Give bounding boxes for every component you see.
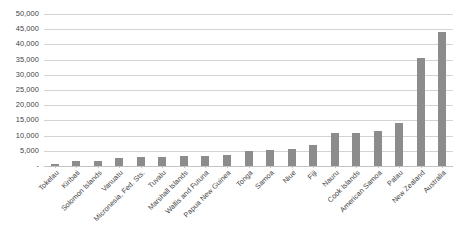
x-axis-tick-label: Fiji <box>307 169 319 181</box>
bar-slot <box>302 14 324 166</box>
y-axis-tick-label: 30,000 <box>0 71 39 79</box>
x-axis-tick-mark <box>141 166 142 168</box>
bar <box>288 149 296 166</box>
y-axis-tick-label: 50,000 <box>0 10 39 18</box>
bar-slot <box>130 14 152 166</box>
bar-slot <box>432 14 454 166</box>
x-axis-tick-mark <box>356 166 357 168</box>
bar-slot <box>367 14 389 166</box>
x-axis-tick-mark <box>162 166 163 168</box>
x-axis-tick-mark <box>378 166 379 168</box>
bar-slot <box>173 14 195 166</box>
bar <box>438 32 446 166</box>
y-axis-tick-label: 10,000 <box>0 132 39 140</box>
bar <box>352 133 360 166</box>
bar <box>331 133 339 166</box>
x-axis-slot: Fiji <box>302 166 324 241</box>
y-axis-tick-label: 25,000 <box>0 86 39 94</box>
bar-slot <box>152 14 174 166</box>
bar-slot <box>44 14 66 166</box>
bar-slot <box>87 14 109 166</box>
bar <box>374 131 382 166</box>
x-axis-tick-mark <box>205 166 206 168</box>
y-axis-tick-label: 35,000 <box>0 56 39 64</box>
y-axis-tick-label: 20,000 <box>0 101 39 109</box>
bar-chart: 50,00045,00040,00035,00030,00025,00020,0… <box>0 0 460 241</box>
x-axis-slot: Papua New Guinea <box>216 166 238 241</box>
x-axis-tick-mark <box>335 166 336 168</box>
bar-slot <box>389 14 411 166</box>
x-axis-tick-mark <box>227 166 228 168</box>
x-axis-slot: Samoa <box>259 166 281 241</box>
x-axis-slot: Niue <box>281 166 303 241</box>
bar-slot <box>324 14 346 166</box>
bar <box>245 151 253 166</box>
bar-slot <box>259 14 281 166</box>
bar-slot <box>345 14 367 166</box>
y-axis-tick-label: 45,000 <box>0 25 39 33</box>
x-axis-tick-mark <box>313 166 314 168</box>
bar-series <box>44 14 453 166</box>
x-axis-tick-mark <box>55 166 56 168</box>
bar-slot <box>281 14 303 166</box>
bar <box>137 157 145 166</box>
bar <box>201 156 209 166</box>
bar-slot <box>410 14 432 166</box>
x-axis-slot: Palau <box>389 166 411 241</box>
x-axis-tick-mark <box>249 166 250 168</box>
x-axis-tick-label: Tonga <box>235 169 255 189</box>
x-axis-slot: New Zealand <box>410 166 432 241</box>
x-axis-tick-mark <box>184 166 185 168</box>
x-axis-slot: American Samoa <box>367 166 389 241</box>
x-axis-tick-mark <box>98 166 99 168</box>
bar <box>223 155 231 166</box>
bar <box>180 156 188 166</box>
bar <box>309 145 317 166</box>
x-axis-tick-mark <box>421 166 422 168</box>
y-axis-tick-label: 15,000 <box>0 116 39 124</box>
bar <box>417 58 425 166</box>
bar-slot <box>195 14 217 166</box>
bar <box>115 158 123 166</box>
bar <box>158 157 166 166</box>
x-axis-slot: Australia <box>432 166 454 241</box>
x-axis: TokelauKiribatiSolomon IslandsVanuatuMic… <box>44 166 453 241</box>
x-axis-tick-mark <box>442 166 443 168</box>
bar <box>395 123 403 166</box>
x-axis-tick-label: Tokelau <box>37 169 60 192</box>
y-axis-tick-label: 5,000 <box>0 147 39 155</box>
bar-slot <box>216 14 238 166</box>
bar-slot <box>66 14 88 166</box>
bar <box>266 150 274 166</box>
bar-slot <box>109 14 131 166</box>
x-axis-tick-mark <box>399 166 400 168</box>
plot-area <box>44 14 453 166</box>
x-axis-tick-mark <box>76 166 77 168</box>
x-axis-tick-mark <box>119 166 120 168</box>
x-axis-slot: Tonga <box>238 166 260 241</box>
bar-slot <box>238 14 260 166</box>
x-axis-tick-mark <box>292 166 293 168</box>
y-axis-tick-label: 40,000 <box>0 40 39 48</box>
y-axis-tick-label: - <box>0 162 39 170</box>
x-axis-tick-mark <box>270 166 271 168</box>
y-axis: 50,00045,00040,00035,00030,00025,00020,0… <box>0 14 44 166</box>
x-axis-tick-label: Niue <box>281 169 297 185</box>
